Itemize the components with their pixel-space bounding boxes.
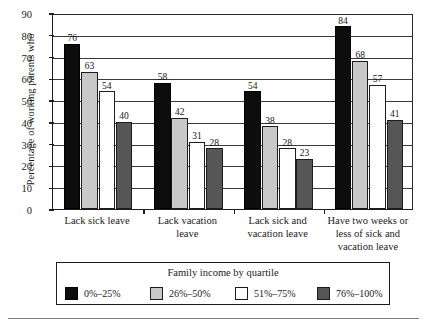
bar: 40 [116, 122, 133, 209]
y-tick-label-40: 40 [2, 117, 32, 128]
x-axis-category-label: Have two weeks orless of sick andvacatio… [315, 214, 421, 253]
x-axis-category-labels: Lack sick leaveLack vacationleaveLack si… [52, 214, 413, 262]
legend-item-label: 76%–100% [336, 288, 383, 299]
bar: 28 [206, 148, 223, 209]
legend-item-label: 51%–75% [254, 288, 296, 299]
bar-group: 76635440 [53, 14, 143, 209]
legend: Family income by quartile 0%–25%26%–50%5… [56, 262, 390, 305]
y-tick-label-90: 90 [2, 9, 32, 20]
y-tick-label-70: 70 [2, 52, 32, 63]
bar-value-label: 23 [300, 149, 310, 159]
bar: 42 [171, 118, 188, 209]
legend-swatch-icon [235, 287, 248, 300]
legend-item[interactable]: 51%–75% [235, 284, 296, 302]
bar-value-label: 41 [390, 110, 400, 120]
bar-group: 58423128 [143, 14, 233, 209]
bar-value-label: 84 [338, 17, 348, 27]
bar: 58 [154, 83, 171, 209]
bar-chart-figure: Percentage of working parents who 010203… [0, 0, 427, 327]
bar: 68 [352, 61, 369, 209]
legend-item-label: 26%–50% [169, 288, 211, 299]
plot-area: 0102030405060708090 76635440584231285438… [52, 14, 413, 210]
bar-value-label: 42 [175, 108, 185, 118]
bar: 76 [64, 44, 81, 210]
bar-value-label: 40 [119, 112, 129, 122]
legend-swatch-icon [65, 287, 78, 300]
bar-value-label: 58 [158, 73, 168, 83]
bar: 38 [262, 126, 279, 209]
y-tick-label-20: 20 [2, 161, 32, 172]
y-tick-label-80: 80 [2, 30, 32, 41]
y-tick-label-50: 50 [2, 96, 32, 107]
y-tick-label-0: 0 [2, 205, 32, 216]
bar-value-label: 68 [355, 51, 365, 61]
bar-group: 54382823 [234, 14, 324, 209]
bar-series-container: 76635440584231285438282384685741 [53, 14, 413, 209]
bar-value-label: 54 [248, 82, 258, 92]
bar: 54 [244, 91, 261, 209]
y-tick-label-10: 10 [2, 183, 32, 194]
bar-value-label: 28 [210, 139, 220, 149]
bar-value-label: 57 [373, 75, 383, 85]
y-tick-mark-0 [49, 209, 54, 210]
bar: 63 [81, 72, 98, 209]
bar: 31 [189, 142, 206, 210]
category-label-line: vacation leave [315, 240, 421, 253]
legend-swatch-icon [150, 287, 163, 300]
category-label-line: Have two weeks or [315, 214, 421, 227]
bar: 54 [99, 91, 116, 209]
bottom-divider-rule [8, 318, 419, 319]
bar: 28 [279, 148, 296, 209]
legend-item[interactable]: 76%–100% [317, 284, 383, 302]
bar-value-label: 28 [283, 139, 293, 149]
bar-value-label: 76 [67, 34, 77, 44]
legend-item[interactable]: 26%–50% [150, 284, 211, 302]
legend-title: Family income by quartile [57, 267, 389, 278]
bar: 57 [369, 85, 386, 209]
bar-group: 84685741 [324, 14, 414, 209]
y-tick-label-60: 60 [2, 74, 32, 85]
bar: 23 [296, 159, 313, 209]
legend-items: 0%–25%26%–50%51%–75%76%–100% [65, 284, 381, 302]
legend-item-label: 0%–25% [84, 288, 121, 299]
bar-value-label: 54 [102, 82, 112, 92]
legend-item[interactable]: 0%–25% [65, 284, 121, 302]
bar: 41 [387, 120, 404, 209]
bar: 84 [335, 26, 352, 209]
bar-value-label: 31 [192, 132, 202, 142]
category-label-line: less of sick and [315, 227, 421, 240]
legend-swatch-icon [317, 287, 330, 300]
bar-value-label: 38 [265, 117, 275, 127]
bar-value-label: 63 [85, 62, 95, 72]
y-tick-label-30: 30 [2, 139, 32, 150]
